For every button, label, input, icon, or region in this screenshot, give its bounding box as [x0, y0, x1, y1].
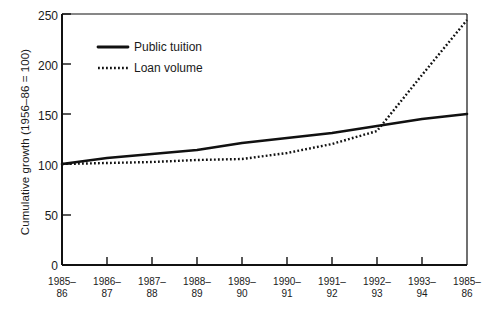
x-tick-label-5-top: 1990–	[273, 276, 301, 287]
legend	[98, 47, 128, 68]
x-tick-label-2-top: 1987–	[138, 276, 166, 287]
x-tick-label-9-top: 1985–	[453, 276, 481, 287]
x-tick-label-5-bottom: 91	[281, 288, 292, 299]
x-tick-label-3-bottom: 89	[191, 288, 202, 299]
y-tick-label-50: 50	[24, 209, 58, 223]
x-tick-label-7-bottom: 93	[371, 288, 382, 299]
chart-plot-svg	[0, 0, 484, 312]
chart-figure: Cumulative growth (1956–86 = 100) 250 20…	[0, 0, 484, 312]
legend-label-public-tuition: Public tuition	[134, 40, 202, 54]
x-tick-label-3-top: 1988–	[183, 276, 211, 287]
y-tick-label-100: 100	[24, 159, 58, 173]
y-axis-title: Cumulative growth (1956–86 = 100)	[19, 12, 31, 272]
y-tick-label-0: 0	[24, 259, 58, 273]
x-tick-label-6-bottom: 92	[326, 288, 337, 299]
x-tick-label-2-bottom: 88	[146, 288, 157, 299]
x-axis-ticks	[107, 257, 422, 265]
series-line-public-tuition	[62, 114, 467, 164]
x-tick-label-9: 1985– 86	[438, 276, 484, 299]
x-tick-label-7-top: 1992–	[363, 276, 391, 287]
x-tick-label-6-top: 1991–	[318, 276, 346, 287]
x-tick-label-8-top: 1993–	[408, 276, 436, 287]
y-tick-label-150: 150	[24, 109, 58, 123]
x-tick-label-9-bottom: 86	[461, 288, 472, 299]
y-tick-label-200: 200	[24, 59, 58, 73]
x-tick-label-8-bottom: 94	[416, 288, 427, 299]
y-tick-label-250: 250	[24, 9, 58, 23]
x-tick-label-0-bottom: 86	[56, 288, 67, 299]
series-line-loan-volume	[62, 20, 467, 164]
y-axis-ticks	[62, 14, 71, 265]
x-tick-label-4-top: 1989–	[228, 276, 256, 287]
x-tick-label-0-top: 1985–	[48, 276, 76, 287]
x-tick-label-1-top: 1986–	[93, 276, 121, 287]
legend-label-loan-volume: Loan volume	[134, 61, 203, 75]
x-tick-label-4-bottom: 90	[236, 288, 247, 299]
x-tick-label-1-bottom: 87	[101, 288, 112, 299]
